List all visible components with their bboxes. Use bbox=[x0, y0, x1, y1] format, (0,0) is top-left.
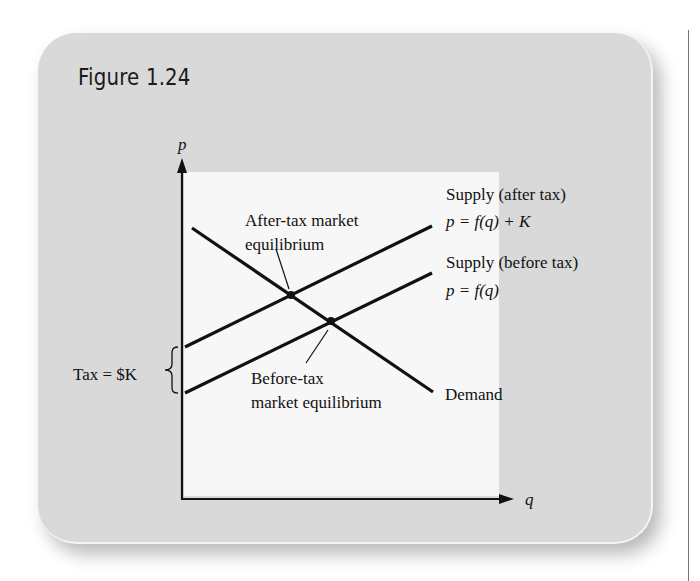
after-tax-eq-label-2: equilibrium bbox=[245, 235, 324, 254]
x-axis-label: q bbox=[525, 490, 534, 509]
before-tax-eq-label-2: market equilibrium bbox=[251, 393, 382, 412]
after-tax-eq-label-1: After-tax market bbox=[245, 211, 359, 230]
after-tax-equilibrium-point bbox=[287, 291, 295, 299]
y-axis-label: p bbox=[177, 135, 187, 154]
supply-before-equation: p = f(q) bbox=[445, 281, 499, 300]
supply-before-label: Supply (before tax) bbox=[446, 253, 578, 272]
demand-label: Demand bbox=[445, 385, 503, 404]
supply-demand-diagram: p q Supply (after tax) p = f(q) + K Supp… bbox=[0, 0, 700, 581]
before-tax-equilibrium-point bbox=[327, 317, 335, 325]
supply-after-label: Supply (after tax) bbox=[446, 185, 566, 204]
x-axis-arrow-icon bbox=[499, 494, 514, 504]
tax-label: Tax = $K bbox=[73, 365, 138, 384]
before-tax-eq-label-1: Before-tax bbox=[251, 369, 324, 388]
tax-brace-icon bbox=[165, 347, 178, 393]
y-axis-arrow-icon bbox=[177, 158, 187, 173]
supply-after-equation: p = f(q) + K bbox=[445, 212, 532, 231]
